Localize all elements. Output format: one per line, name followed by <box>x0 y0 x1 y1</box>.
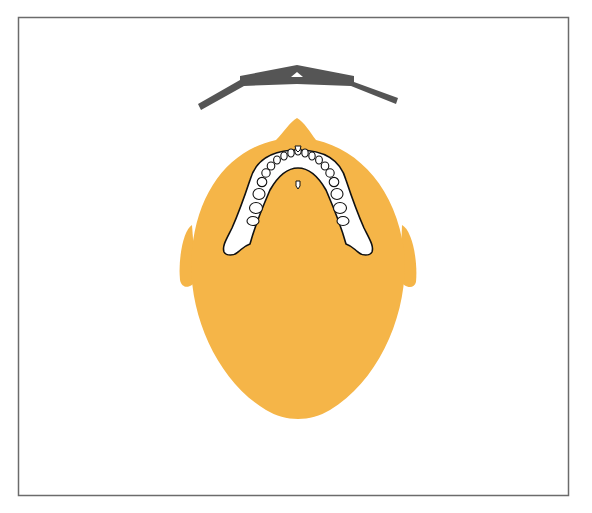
diagram-canvas: Panoramic radiography principle Top-down… <box>0 0 592 513</box>
tooth-marker-lower <box>296 181 300 189</box>
